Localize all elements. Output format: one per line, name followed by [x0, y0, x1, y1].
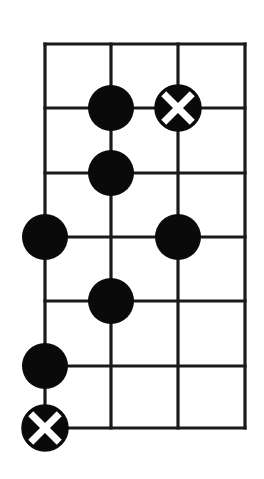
muted-note-marker	[155, 85, 201, 131]
fret-grid	[45, 44, 245, 428]
note-dot	[22, 343, 68, 389]
fretboard-diagram	[0, 0, 264, 479]
note-dot	[88, 278, 134, 324]
note-dot	[155, 214, 201, 260]
note-dot	[88, 85, 134, 131]
note-dot	[22, 214, 68, 260]
note-dot	[88, 150, 134, 196]
muted-note-marker	[22, 405, 68, 451]
